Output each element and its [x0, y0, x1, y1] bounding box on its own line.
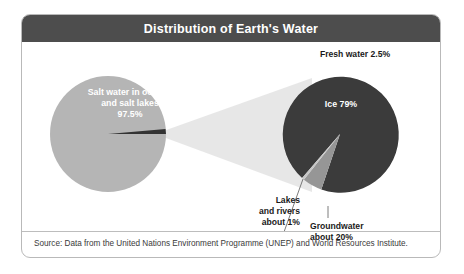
source-note: Source: Data from the United Nations Env… — [34, 239, 408, 248]
label-salt-water: Salt water in oceans and salt lakes 97.5… — [64, 87, 196, 120]
slice-ice — [283, 77, 399, 193]
label-lakes-rivers: Lakes and rivers about 1% — [218, 195, 300, 228]
panel-title-bar: Distribution of Earth's Water — [22, 15, 440, 42]
label-salt-water-line3: 97.5% — [64, 109, 196, 120]
label-lakes-rivers-line3: about 1% — [218, 217, 300, 228]
label-fresh-water: Fresh water 2.5% — [290, 49, 420, 60]
label-ice: Ice 79% — [296, 99, 386, 110]
chart-panel: Distribution of Earth's Water — [21, 14, 441, 258]
page-title: Distribution of Earth's Water — [144, 22, 318, 36]
label-lakes-rivers-line1: Lakes — [218, 195, 300, 206]
footer-divider — [22, 231, 440, 232]
label-lakes-rivers-line2: and rivers — [218, 206, 300, 217]
label-salt-water-line2: and salt lakes — [64, 98, 196, 109]
label-salt-water-line1: Salt water in oceans — [64, 87, 196, 98]
right-pie-fresh-water — [283, 77, 399, 193]
